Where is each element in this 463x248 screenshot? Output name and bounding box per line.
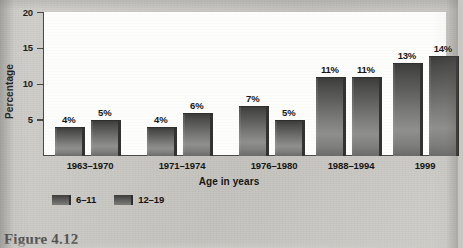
chart-legend: 6–11 12–19 xyxy=(52,194,164,205)
y-axis-title: Percentage xyxy=(2,46,18,138)
bar-value-label: 4% xyxy=(62,114,75,125)
bar-6-11-1976-1980: 7% xyxy=(239,106,269,156)
bar-value-label: 7% xyxy=(246,93,259,104)
legend-swatch-icon xyxy=(114,195,133,205)
bar-12-19-1999: 14% xyxy=(429,56,459,156)
y-axis-tick-label-10: 10 xyxy=(23,78,33,89)
x-axis-category-label-4: 1988–1994 xyxy=(309,160,393,171)
legend-label: 12–19 xyxy=(138,194,164,205)
x-axis-category-label-5: 1999 xyxy=(390,160,460,171)
bar-6-11-1971-1974: 4% xyxy=(147,127,177,156)
legend-label: 6–11 xyxy=(76,194,96,205)
bar-group-1999: 13% 14% xyxy=(393,12,463,156)
bar-group-1963-1970: 4% 5% xyxy=(55,12,125,156)
figure-caption: Figure 4.12 xyxy=(4,231,78,248)
bar-group-1976-1980: 7% 5% xyxy=(239,12,309,156)
bar-value-label: 13% xyxy=(398,50,416,61)
x-axis-category-label-1: 1963–1970 xyxy=(48,160,132,171)
bar-value-label: 6% xyxy=(190,100,203,111)
bar-group-1971-1974: 4% 6% xyxy=(147,12,217,156)
bar-value-label: 11% xyxy=(357,64,375,75)
bar-12-19-1988-1994: 11% xyxy=(352,77,382,156)
bar-6-11-1999: 13% xyxy=(393,63,423,156)
bar-6-11-1988-1994: 11% xyxy=(316,77,346,156)
legend-swatch-icon xyxy=(52,195,71,205)
y-axis-tick-label-5: 5 xyxy=(28,114,33,125)
y-axis-tick-10: 10 xyxy=(37,84,43,85)
y-axis-line xyxy=(43,12,44,156)
bar-12-19-1976-1980: 5% xyxy=(275,120,305,156)
bar-value-label: 4% xyxy=(154,114,167,125)
legend-item-6-11: 6–11 xyxy=(52,194,96,205)
x-axis-category-label-2: 1971–1974 xyxy=(140,160,224,171)
y-axis-tick-5: 5 xyxy=(37,119,43,120)
bar-value-label: 5% xyxy=(282,107,295,118)
bar-value-label: 14% xyxy=(434,43,452,54)
bar-value-label: 11% xyxy=(321,64,339,75)
bar-12-19-1963-1970: 5% xyxy=(91,120,121,156)
x-axis-category-label-3: 1976–1980 xyxy=(232,160,316,171)
y-axis-tick-15: 15 xyxy=(37,48,43,49)
bar-6-11-1963-1970: 4% xyxy=(55,127,85,156)
y-axis-tick-label-20: 20 xyxy=(23,7,33,18)
bar-value-label: 5% xyxy=(98,107,111,118)
y-axis-tick-label-15: 15 xyxy=(23,43,33,54)
legend-item-12-19: 12–19 xyxy=(114,194,164,205)
bar-12-19-1971-1974: 6% xyxy=(183,113,213,156)
bar-group-1988-1994: 11% 11% xyxy=(316,12,386,156)
y-axis-tick-20: 20 xyxy=(37,12,43,13)
x-axis-title: Age in years xyxy=(0,176,458,187)
